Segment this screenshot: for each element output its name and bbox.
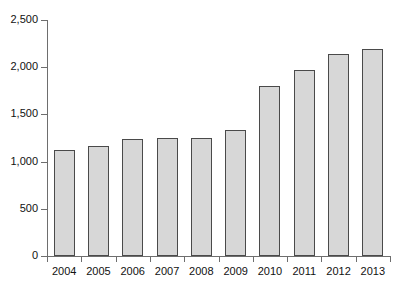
y-axis-tick: [41, 20, 47, 21]
x-axis-tick-label: 2007: [150, 265, 184, 277]
x-axis-tick-label: 2008: [184, 265, 218, 277]
bar: [54, 150, 75, 256]
bar: [328, 54, 349, 256]
x-axis-tick: [356, 256, 357, 262]
y-axis-tick: [41, 209, 47, 210]
y-axis-tick-label: 500: [20, 203, 38, 214]
x-axis-tick: [47, 256, 48, 262]
bar: [259, 86, 280, 256]
bar: [294, 70, 315, 256]
x-axis-tick: [150, 256, 151, 262]
x-axis-tick-label: 2006: [116, 265, 150, 277]
x-axis-tick: [184, 256, 185, 262]
x-axis-tick: [253, 256, 254, 262]
bar: [191, 138, 212, 256]
x-axis-tick: [219, 256, 220, 262]
bar: [88, 146, 109, 256]
y-axis-tick: [41, 162, 47, 163]
x-axis-tick: [321, 256, 322, 262]
x-axis-tick: [81, 256, 82, 262]
bar: [225, 130, 246, 256]
x-axis-tick-label: 2009: [219, 265, 253, 277]
y-axis-tick: [41, 67, 47, 68]
x-axis-tick-label: 2005: [81, 265, 115, 277]
y-axis-tick-label: 1,500: [10, 108, 38, 119]
x-axis-tick-label: 2011: [287, 265, 321, 277]
y-axis-tick-label: 1,000: [10, 156, 38, 167]
x-axis-tick-label: 2012: [322, 265, 356, 277]
bar: [122, 139, 143, 256]
y-axis-tick: [41, 114, 47, 115]
bar: [157, 138, 178, 256]
bar: [362, 49, 383, 256]
x-axis-tick: [287, 256, 288, 262]
y-axis-tick-label: 0: [32, 250, 38, 261]
x-axis-tick-label: 2004: [47, 265, 81, 277]
y-axis-tick-label: 2,000: [10, 61, 38, 72]
bar-chart: 05001,0001,5002,0002,500 200420052006200…: [0, 0, 403, 283]
x-axis-tick-label: 2010: [253, 265, 287, 277]
y-axis-tick-label: 2,500: [10, 14, 38, 25]
y-axis-line: [47, 20, 48, 257]
x-axis-tick: [116, 256, 117, 262]
x-axis-tick-label: 2013: [356, 265, 390, 277]
x-axis-tick: [390, 256, 391, 262]
